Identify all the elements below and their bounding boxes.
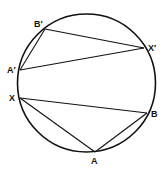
label-A: A — [91, 156, 98, 166]
segment-B-A — [95, 113, 147, 152]
segment-X-B — [20, 98, 147, 113]
label-X: X — [9, 93, 15, 103]
point-labels: B′X′A′XBA — [7, 19, 158, 166]
label-B: B — [151, 109, 158, 119]
circle-chord-diagram: B′X′A′XBA — [0, 0, 166, 172]
label-B_prime: B′ — [34, 19, 43, 29]
label-X_prime: X′ — [148, 43, 156, 53]
segment-X_prime-A_prime — [20, 48, 144, 70]
segment-A_prime-B_prime — [20, 29, 45, 70]
label-A_prime: A′ — [7, 65, 16, 75]
circle — [18, 14, 156, 152]
segment-B_prime-X_prime — [45, 29, 144, 48]
